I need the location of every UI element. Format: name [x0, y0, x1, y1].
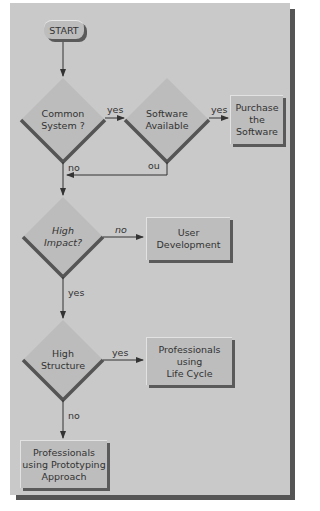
outcome-text: the [235, 114, 278, 126]
outcome-text: Software [235, 126, 278, 138]
outcome-user-development: User Development [146, 217, 230, 260]
outcome-text: Development [157, 239, 221, 251]
start-label: START [49, 25, 78, 36]
edge-label-common-no: no [68, 162, 80, 173]
decision-text: Software [137, 108, 197, 120]
decision-high-impact-label: High Impact? [33, 225, 93, 249]
outcome-text: using Prototyping [22, 459, 105, 471]
decision-text: High [33, 225, 93, 237]
decision-text: Structure [33, 360, 93, 372]
decision-text: Impact? [33, 237, 93, 249]
edge-label-structure-yes: yes [112, 347, 128, 358]
edge-label-software-yes: yes [211, 104, 227, 115]
decision-text: Common [33, 108, 93, 120]
decision-text: High [33, 348, 93, 360]
outcome-purchase-software: Purchase the Software [230, 95, 283, 144]
outcome-professionals-prototyping: Professionals using Prototyping Approach [20, 440, 107, 488]
outcome-text: using [158, 356, 220, 368]
decision-high-structure-label: High Structure [33, 348, 93, 372]
outcome-text: Approach [22, 471, 105, 483]
outcome-text: Life Cycle [158, 368, 220, 380]
outcome-professionals-life-cycle: Professionals using Life Cycle [146, 337, 232, 385]
decision-text: Available [137, 120, 197, 132]
outcome-text: User [157, 227, 221, 239]
edge-label-common-yes: yes [107, 104, 123, 115]
edge-label-impact-yes: yes [68, 287, 84, 298]
edge-label-impact-no: no [115, 224, 127, 235]
decision-software-available-label: Software Available [137, 108, 197, 132]
start-terminal: START [44, 20, 84, 39]
decision-common-system-label: Common System ? [33, 108, 93, 132]
decision-text: System ? [33, 120, 93, 132]
outcome-text: Professionals [158, 344, 220, 356]
edge-label-software-no: no [148, 162, 160, 173]
edge-label-structure-no: no [68, 410, 80, 421]
outcome-text: Professionals [22, 447, 105, 459]
outcome-text: Purchase [235, 102, 278, 114]
